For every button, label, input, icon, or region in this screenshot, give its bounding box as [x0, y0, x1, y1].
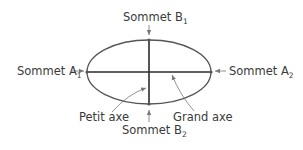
- vertex-a2-dot: [209, 70, 212, 73]
- ellipse-diagram: Sommet B1 Sommet A1 Sommet A2 Petit axe …: [0, 0, 303, 150]
- label-sommet-a2: Sommet A2: [229, 64, 294, 80]
- label-sommet-b2: Sommet B2: [122, 123, 187, 139]
- label-sommet-b1: Sommet B1: [123, 10, 188, 26]
- arrow-grand-axe: [172, 75, 194, 111]
- label-petit-axe: Petit axe: [79, 110, 129, 124]
- vertex-a1-dot: [85, 70, 88, 73]
- vertex-b1-dot: [147, 38, 150, 41]
- vertex-b2-dot: [147, 102, 150, 105]
- label-grand-axe: Grand axe: [173, 110, 233, 124]
- label-sommet-a1: Sommet A1: [17, 64, 82, 80]
